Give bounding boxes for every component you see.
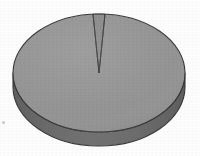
pie-chart-canvas: [0, 0, 200, 156]
scan-speck-icon: [2, 121, 5, 124]
pie-chart-figure: [0, 0, 200, 156]
pie-top-shading: [14, 15, 185, 132]
